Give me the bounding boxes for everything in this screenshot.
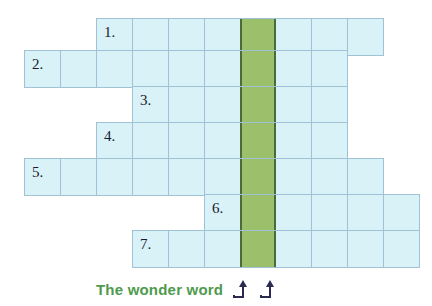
crossword-cell[interactable] [312, 231, 348, 267]
wonder-word-cell[interactable] [240, 195, 276, 231]
crossword-cell[interactable] [276, 195, 312, 231]
crossword-cell[interactable] [205, 159, 241, 195]
crossword-cell[interactable] [169, 87, 205, 123]
crossword-row-2: 2. [24, 50, 348, 88]
crossword-cell[interactable] [312, 51, 348, 87]
crossword-cell[interactable] [169, 123, 205, 159]
crossword-cell[interactable] [312, 195, 348, 231]
crossword-cell[interactable]: 6. [205, 195, 241, 231]
crossword-cell[interactable]: 7. [133, 231, 169, 267]
crossword-cell[interactable]: 4. [97, 123, 133, 159]
crossword-cell[interactable] [169, 51, 205, 87]
crossword-cell[interactable]: 2. [25, 51, 61, 87]
crossword-cell[interactable] [348, 159, 384, 195]
crossword-cell[interactable] [348, 19, 384, 55]
crossword-cell[interactable] [61, 159, 97, 195]
clue-number: 7. [140, 237, 151, 252]
corner-up-arrow-icon-2 [259, 279, 277, 299]
crossword-cell[interactable] [205, 231, 241, 267]
wonder-word-cell[interactable] [240, 123, 276, 159]
crossword-row-4: 4. [96, 122, 348, 160]
crossword-cell[interactable] [312, 123, 348, 159]
crossword-cell[interactable] [276, 231, 312, 267]
crossword-cell[interactable] [133, 159, 169, 195]
crossword-cell[interactable] [205, 123, 241, 159]
clue-number: 1. [104, 25, 115, 40]
wonder-word-label: The wonder word [96, 281, 223, 298]
crossword-cell[interactable] [276, 87, 312, 123]
crossword-cell[interactable] [276, 123, 312, 159]
crossword-cell[interactable] [348, 195, 384, 231]
crossword-cell[interactable] [61, 51, 97, 87]
wonder-word-cell[interactable] [240, 51, 276, 87]
crossword-cell[interactable] [384, 231, 420, 267]
clue-number: 2. [32, 57, 43, 72]
crossword-cell[interactable]: 5. [25, 159, 61, 195]
crossword-cell[interactable] [384, 195, 420, 231]
wonder-word-cell[interactable] [240, 87, 276, 123]
crossword-cell[interactable] [133, 123, 169, 159]
crossword-cell[interactable] [312, 159, 348, 195]
crossword-cell[interactable] [276, 159, 312, 195]
crossword-cell[interactable] [169, 231, 205, 267]
crossword-cell[interactable] [312, 87, 348, 123]
crossword-cell[interactable] [133, 51, 169, 87]
crossword-cell[interactable] [97, 51, 133, 87]
crossword-cell[interactable] [276, 51, 312, 87]
crossword-row-3: 3. [132, 86, 348, 124]
crossword-cell[interactable] [348, 231, 384, 267]
crossword-cell[interactable] [205, 51, 241, 87]
clue-number: 5. [32, 165, 43, 180]
clue-number: 6. [212, 201, 223, 216]
crossword-row-6: 6. [204, 194, 420, 232]
caption-bar: The wonder word [96, 278, 277, 300]
crossword-cell[interactable]: 3. [133, 87, 169, 123]
wonder-word-cell[interactable] [240, 159, 276, 195]
crossword-row-5: 5. [24, 158, 384, 196]
crossword-cell[interactable] [169, 159, 205, 195]
crossword-row-7: 7. [132, 230, 420, 268]
clue-number: 4. [104, 129, 115, 144]
corner-up-arrow-icon [232, 279, 250, 299]
clue-number: 3. [140, 93, 151, 108]
crossword-cell[interactable] [97, 159, 133, 195]
wonder-word-cell[interactable] [240, 231, 276, 267]
crossword-cell[interactable] [205, 87, 241, 123]
crossword-puzzle: 1.2.3.4.5.6.7. [0, 0, 432, 306]
